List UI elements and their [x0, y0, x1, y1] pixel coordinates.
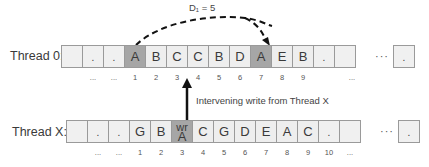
- thread0-label: Thread 0:: [10, 49, 64, 63]
- cell: A: [276, 120, 298, 143]
- intervening-write-label: Intervening write from Thread X: [196, 95, 329, 106]
- index-label: 5: [213, 148, 235, 157]
- index-label: 8: [276, 148, 298, 157]
- index-label: ...: [108, 148, 130, 157]
- threadX-last-cell: .: [398, 120, 420, 143]
- index-label: 2: [145, 73, 167, 82]
- reuse-distance-curve: [136, 17, 272, 45]
- index-label: 10: [318, 148, 340, 157]
- threadX-label: Thread X:: [12, 125, 67, 139]
- index-label: 9: [297, 148, 319, 157]
- cell: .: [398, 120, 420, 143]
- thread0-cells: . . A B C C B D A E B .: [61, 45, 356, 68]
- cell: B: [208, 45, 230, 68]
- cell: C: [192, 120, 214, 143]
- cell: E: [255, 120, 277, 143]
- write-cell: wr A: [171, 120, 193, 143]
- cell-highlighted: A: [124, 45, 146, 68]
- cell: .: [393, 45, 415, 68]
- threadX-ellipsis: ···: [380, 125, 394, 137]
- cell: .: [313, 45, 335, 68]
- index-label: ...: [341, 73, 363, 82]
- cell: G: [213, 120, 235, 143]
- cell: B: [145, 45, 167, 68]
- cell: [334, 45, 356, 68]
- cell: [61, 45, 83, 68]
- threadX-cells: . . G B wr A C G D E A C .: [66, 120, 361, 143]
- cell-highlighted: A: [250, 45, 272, 68]
- index-label: 4: [192, 148, 214, 157]
- index-label: 1: [124, 73, 146, 82]
- cell: B: [150, 120, 172, 143]
- cell: .: [103, 45, 125, 68]
- thread0-ellipsis: ···: [375, 50, 389, 62]
- index-label: 9: [292, 73, 314, 82]
- index-label: 8: [271, 73, 293, 82]
- cell: .: [318, 120, 340, 143]
- index-label: 6: [234, 148, 256, 157]
- index-label: ...: [87, 148, 109, 157]
- cell: .: [82, 45, 104, 68]
- index-label: 1: [129, 148, 151, 157]
- cell: G: [129, 120, 151, 143]
- index-label: 2: [150, 148, 172, 157]
- index-label: ...: [103, 73, 125, 82]
- index-label: 7: [255, 148, 277, 157]
- index-label: 6: [229, 73, 251, 82]
- index-label: 5: [208, 73, 230, 82]
- cell: E: [271, 45, 293, 68]
- write-cell-value: A: [178, 132, 187, 142]
- cell: B: [292, 45, 314, 68]
- cell: D: [229, 45, 251, 68]
- index-label: 4: [187, 73, 209, 82]
- cell: .: [108, 120, 130, 143]
- cell: D: [234, 120, 256, 143]
- index-label: 7: [250, 73, 272, 82]
- thread0-last-cell: .: [393, 45, 415, 68]
- cell: .: [87, 120, 109, 143]
- index-label: ...: [339, 148, 361, 157]
- cell: C: [187, 45, 209, 68]
- index-label: 3: [166, 73, 188, 82]
- cell: [339, 120, 361, 143]
- reuse-distance-label: D₁ = 5: [189, 2, 215, 13]
- index-label: ...: [82, 73, 104, 82]
- cell: [66, 120, 88, 143]
- cell: C: [166, 45, 188, 68]
- index-label: 3: [171, 148, 193, 157]
- cell: C: [297, 120, 319, 143]
